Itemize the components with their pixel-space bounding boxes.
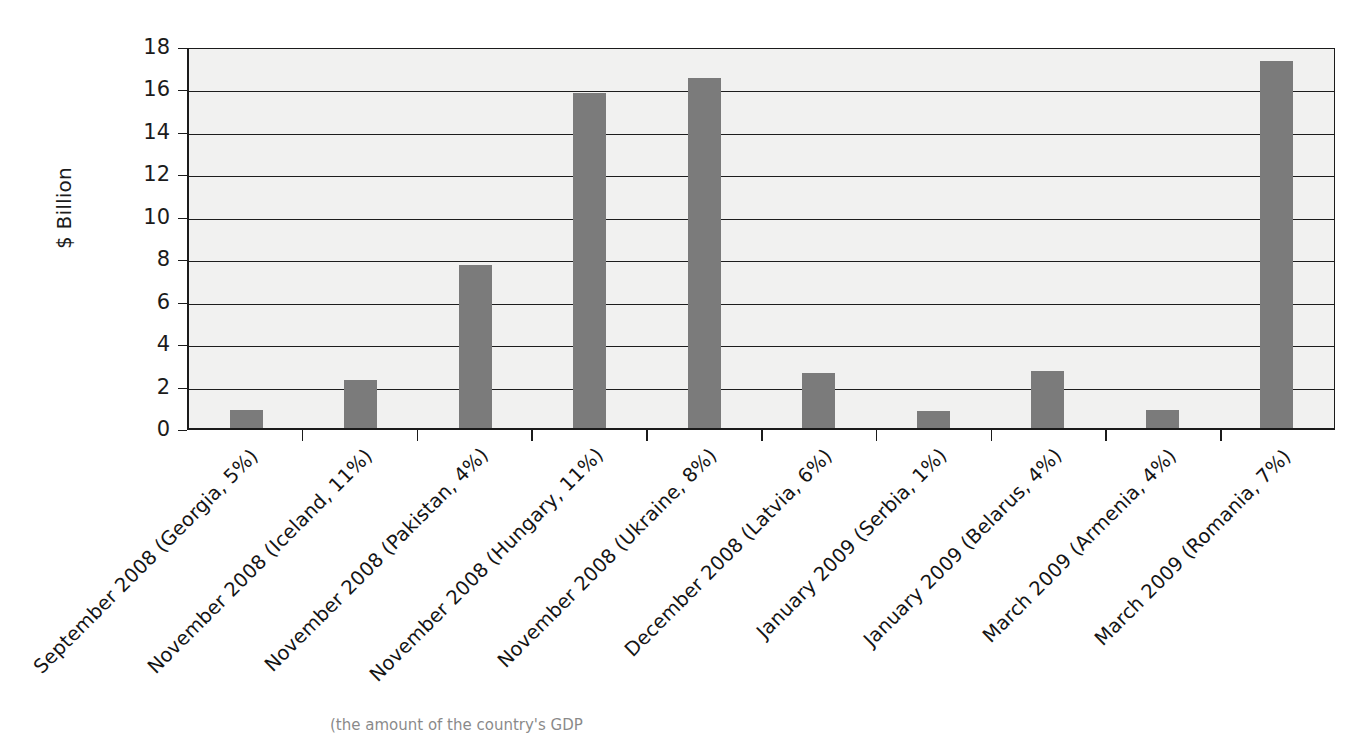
figure-caption: (the amount of the country's GDP bbox=[330, 716, 1371, 734]
bar-series bbox=[189, 49, 1334, 428]
y-tick-mark bbox=[178, 303, 187, 304]
y-tick-mark bbox=[178, 388, 187, 389]
x-tick-mark bbox=[876, 430, 878, 441]
bar[interactable] bbox=[230, 410, 263, 428]
x-category-label: January 2009 (Serbia, 1%) bbox=[752, 444, 952, 644]
y-axis-title: $ Billion bbox=[52, 128, 76, 288]
x-tick-mark bbox=[761, 430, 763, 441]
y-tick-label: 16 bbox=[124, 79, 170, 100]
x-tick-mark bbox=[1105, 430, 1107, 441]
x-category-label: March 2009 (Romania, 7%) bbox=[1090, 444, 1296, 650]
y-tick-label: 10 bbox=[124, 207, 170, 228]
y-tick-mark bbox=[178, 260, 187, 261]
y-tick-label: 0 bbox=[124, 419, 170, 440]
bar-slot bbox=[418, 49, 533, 428]
y-tick-mark bbox=[178, 430, 187, 431]
x-tick-mark bbox=[1220, 430, 1222, 441]
bar[interactable] bbox=[917, 411, 950, 428]
bar[interactable] bbox=[344, 380, 377, 428]
y-tick-label: 14 bbox=[124, 122, 170, 143]
bar-slot bbox=[647, 49, 762, 428]
y-tick-mark bbox=[178, 218, 187, 219]
bar[interactable] bbox=[1146, 410, 1179, 428]
x-category-label: November 2008 (Pakistan, 4%) bbox=[260, 444, 493, 677]
bar[interactable] bbox=[1031, 371, 1064, 428]
chart-figure: $ Billion 024681012141618 September 2008… bbox=[0, 0, 1371, 734]
x-category-label: January 2009 (Belarus, 4%) bbox=[859, 444, 1066, 651]
x-tick-mark bbox=[417, 430, 419, 441]
x-tick-mark bbox=[646, 430, 648, 441]
bar-slot bbox=[189, 49, 304, 428]
bar-slot bbox=[991, 49, 1106, 428]
bar-slot bbox=[876, 49, 991, 428]
x-tick-mark bbox=[991, 430, 993, 441]
y-tick-mark bbox=[178, 48, 187, 49]
bar[interactable] bbox=[459, 265, 492, 428]
x-tick-mark bbox=[302, 430, 304, 441]
x-category-label: November 2008 (Ukraine, 8%) bbox=[493, 444, 721, 672]
y-tick-label: 2 bbox=[124, 377, 170, 398]
bar[interactable] bbox=[688, 78, 721, 428]
bar-slot bbox=[533, 49, 648, 428]
y-tick-label: 4 bbox=[124, 334, 170, 355]
bar-slot bbox=[304, 49, 419, 428]
x-category-label: March 2009 (Armenia, 4%) bbox=[978, 444, 1181, 647]
y-tick-mark bbox=[178, 345, 187, 346]
y-tick-label: 8 bbox=[124, 249, 170, 270]
bar[interactable] bbox=[1260, 61, 1293, 428]
plot-area bbox=[187, 48, 1335, 430]
x-axis-tick-marks bbox=[187, 430, 1335, 442]
bar[interactable] bbox=[802, 373, 835, 428]
bar[interactable] bbox=[573, 93, 606, 428]
y-tick-mark bbox=[178, 133, 187, 134]
y-tick-mark bbox=[178, 175, 187, 176]
x-category-label: December 2008 (Latvia, 6%) bbox=[620, 444, 837, 661]
x-category-label: November 2008 (Hungary, 11%) bbox=[365, 444, 608, 687]
x-tick-mark bbox=[531, 430, 533, 441]
bar-slot bbox=[1105, 49, 1220, 428]
y-tick-label: 18 bbox=[124, 37, 170, 58]
y-tick-label: 12 bbox=[124, 164, 170, 185]
y-tick-label: 6 bbox=[124, 292, 170, 313]
bar-slot bbox=[762, 49, 877, 428]
y-tick-mark bbox=[178, 90, 187, 91]
bar-slot bbox=[1220, 49, 1335, 428]
y-axis-tick-labels: 024681012141618 bbox=[124, 0, 170, 734]
x-category-label: November 2008 (Iceland, 11%) bbox=[143, 444, 377, 678]
